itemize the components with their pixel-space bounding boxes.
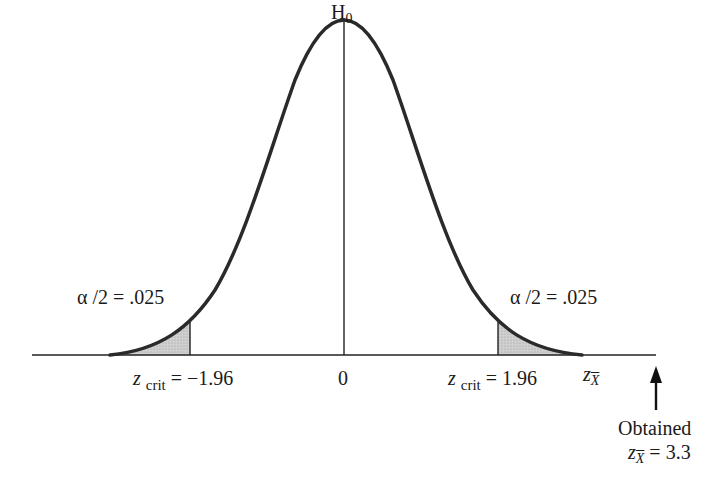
crit-value: = 1.96 <box>481 367 537 389</box>
right-critical-label: z crit = 1.96 <box>448 368 537 388</box>
z-var: z <box>628 441 636 463</box>
left-critical-label: z crit = −1.96 <box>133 368 233 388</box>
xbar-subscript: X <box>591 373 600 388</box>
xbar-subscript: X <box>636 451 645 466</box>
crit-value: = −1.96 <box>166 367 234 389</box>
h-subscript: 0 <box>345 11 352 26</box>
crit-subscript: crit <box>461 377 481 393</box>
obtained-value-label: zX = 3.3 <box>628 442 691 462</box>
obtained-value: = 3.3 <box>644 441 690 463</box>
obtained-label: Obtained <box>618 418 691 438</box>
z-var: z <box>133 367 141 389</box>
right-rejection-region <box>498 322 582 355</box>
obtained-arrow-head <box>650 366 662 383</box>
left-rejection-region <box>110 322 190 355</box>
axis-label: zX <box>583 364 599 384</box>
crit-subscript: crit <box>146 377 166 393</box>
z-var: z <box>448 367 456 389</box>
left-alpha-label: α /2 = .025 <box>77 287 164 307</box>
null-hypothesis-label: H0 <box>331 2 352 22</box>
right-alpha-label: α /2 = .025 <box>510 287 597 307</box>
center-tick-label: 0 <box>338 368 348 388</box>
z-var: z <box>583 363 591 385</box>
h-label: H <box>331 1 345 23</box>
distribution-diagram <box>0 0 726 485</box>
